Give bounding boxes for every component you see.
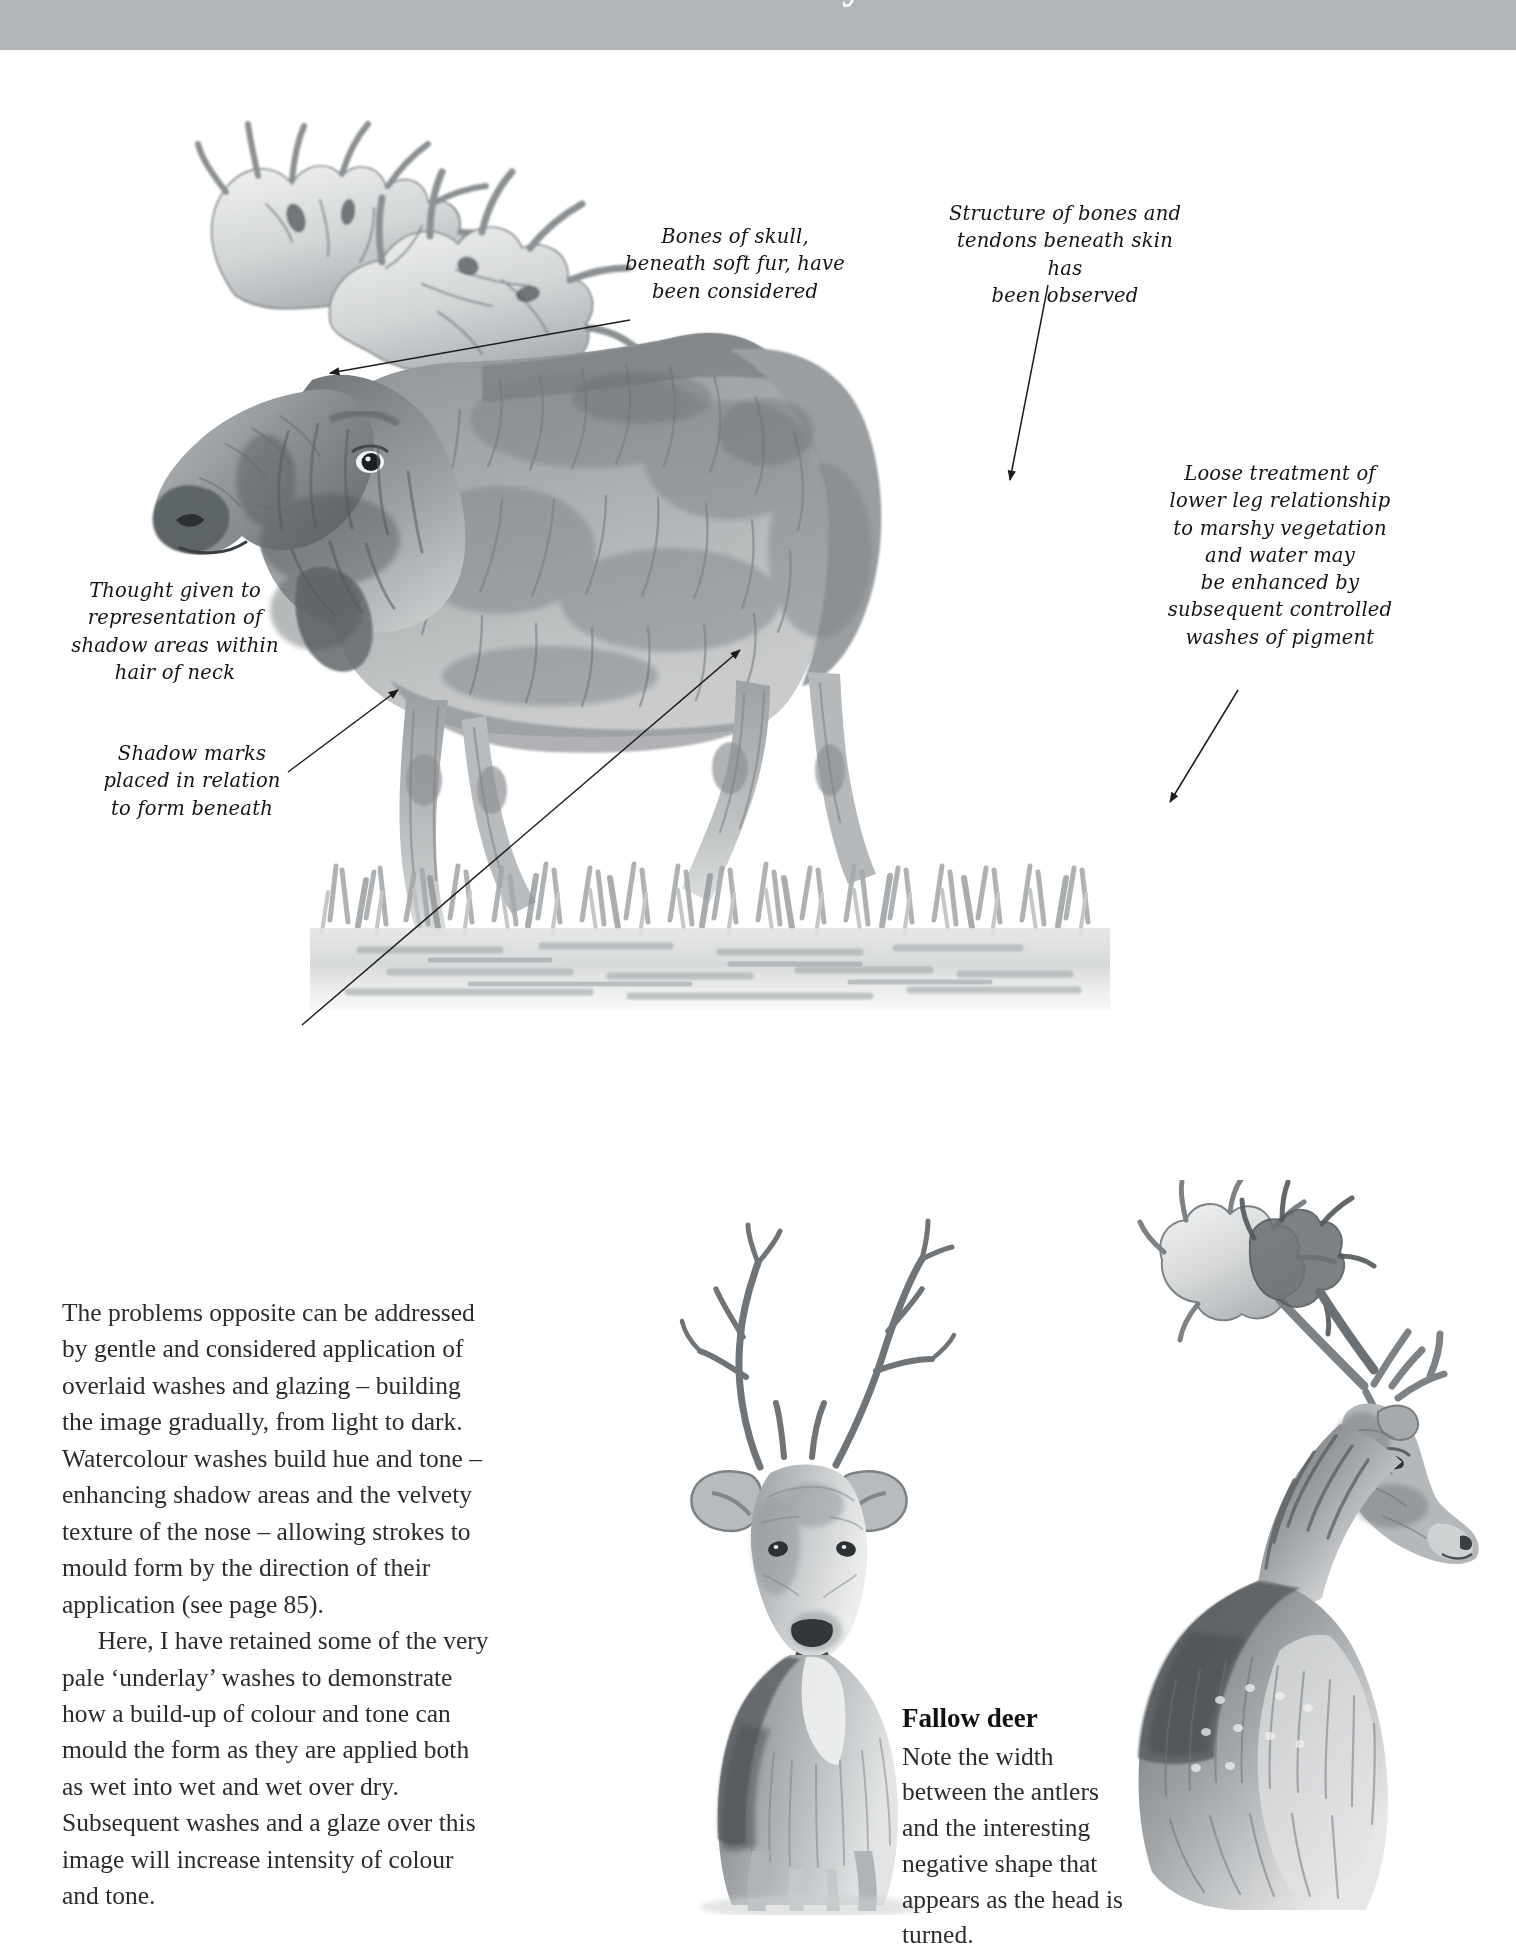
banner-title: Case study	[0, 0, 1516, 9]
body-copy: The problems opposite can be addressed b…	[62, 1295, 494, 1915]
top-banner: Case study	[0, 0, 1516, 50]
body-paragraph-2: Here, I have retained some of the very p…	[62, 1623, 494, 1915]
deer-turned-body	[1138, 1580, 1388, 1910]
deer-turned-antlers	[1140, 1180, 1444, 1434]
caption-title: Fallow deer	[902, 1700, 1132, 1738]
deer-front-body	[700, 1655, 920, 1915]
annotation-bones-of-skull: Bones of skull, beneath soft fur, have b…	[620, 223, 850, 305]
fallow-deer-turned-illustration	[1130, 1180, 1490, 1915]
annotation-loose-treatment: Loose treatment of lower leg relationshi…	[1150, 460, 1410, 651]
body-paragraph-1: The problems opposite can be addressed b…	[62, 1295, 494, 1623]
deer-front-antlers	[682, 1221, 954, 1467]
page-content: Bones of skull, beneath soft fur, have b…	[0, 50, 1516, 1916]
caption-text: Note the width between the antlers and t…	[902, 1739, 1132, 1947]
annotation-structure-of-bones: Structure of bones and tendons beneath s…	[940, 200, 1190, 309]
deer-front-head	[751, 1464, 867, 1659]
annotation-thought-given: Thought given to representation of shado…	[60, 577, 290, 686]
annotation-shadow-marks: Shadow marks placed in relation to form …	[92, 740, 292, 822]
water-reflections	[310, 928, 1110, 1010]
fallow-deer-caption: Fallow deer Note the width between the a…	[902, 1700, 1132, 1947]
